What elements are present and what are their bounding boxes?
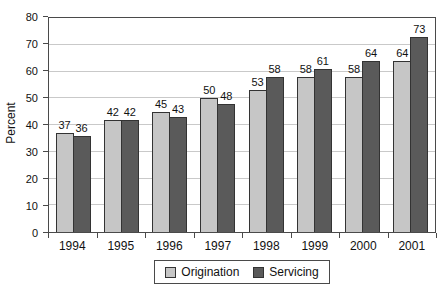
bar-chart-figure: Percent 01020304050607080 37364242454350… xyxy=(0,0,443,297)
bar-origination-1998: 53 xyxy=(249,90,267,232)
bar-value-label: 61 xyxy=(317,55,329,67)
bar-origination-1995: 42 xyxy=(104,120,122,232)
bar-group-1995: 4242 xyxy=(97,18,145,232)
bar-servicing-1996: 43 xyxy=(169,117,187,232)
x-tick-label-1998: 1998 xyxy=(242,239,291,253)
bar-origination-1994: 37 xyxy=(56,133,74,232)
origination-swatch-icon xyxy=(165,267,176,278)
y-axis: 01020304050607080 xyxy=(0,17,48,233)
legend-item-origination: Origination xyxy=(165,265,239,279)
y-tick-label-80: 80 xyxy=(26,11,38,23)
legend: OriginationServicing xyxy=(154,260,329,284)
bar-servicing-1998: 58 xyxy=(266,77,284,232)
legend-row: OriginationServicing xyxy=(48,260,436,284)
bar-servicing-1995: 42 xyxy=(121,120,139,232)
bar-servicing-1997: 48 xyxy=(217,104,235,232)
bar-value-label: 45 xyxy=(155,98,167,110)
legend-label-servicing: Servicing xyxy=(269,265,318,279)
bar-servicing-1994: 36 xyxy=(73,136,91,232)
x-tick-label-2001: 2001 xyxy=(388,239,437,253)
servicing-swatch-icon xyxy=(253,267,264,278)
x-tick-mark-3 xyxy=(194,233,195,238)
x-tick-label-1997: 1997 xyxy=(194,239,243,253)
bar-origination-2000: 58 xyxy=(345,77,363,232)
bar-value-label: 58 xyxy=(300,63,312,75)
bar-servicing-1999: 61 xyxy=(314,69,332,232)
x-tick-label-1995: 1995 xyxy=(97,239,146,253)
bar-group-1994: 3736 xyxy=(49,18,97,232)
plot-area: 37364242454350485358586158646473 xyxy=(48,17,436,233)
x-tick-mark-8 xyxy=(436,233,437,238)
bar-value-label: 64 xyxy=(365,47,377,59)
bar-group-1997: 5048 xyxy=(194,18,242,232)
bar-group-2000: 5864 xyxy=(339,18,387,232)
bar-value-label: 58 xyxy=(269,63,281,75)
bar-value-label: 48 xyxy=(220,90,232,102)
x-tick-mark-7 xyxy=(388,233,389,238)
bar-value-label: 42 xyxy=(107,106,119,118)
x-tick-label-2000: 2000 xyxy=(339,239,388,253)
x-tick-label-1994: 1994 xyxy=(48,239,97,253)
bar-servicing-2000: 64 xyxy=(362,61,380,232)
y-tick-label-20: 20 xyxy=(26,173,38,185)
bar-value-label: 43 xyxy=(172,103,184,115)
legend-item-servicing: Servicing xyxy=(253,265,318,279)
y-tick-label-0: 0 xyxy=(32,227,38,239)
bar-value-label: 64 xyxy=(396,47,408,59)
y-tick-label-70: 70 xyxy=(26,38,38,50)
bar-group-2001: 6473 xyxy=(387,18,435,232)
x-axis-tick-marks xyxy=(48,233,436,238)
bar-value-label: 42 xyxy=(124,106,136,118)
y-tick-label-30: 30 xyxy=(26,146,38,158)
bar-groups: 37364242454350485358586158646473 xyxy=(49,18,435,232)
x-tick-label-1996: 1996 xyxy=(145,239,194,253)
x-tick-mark-2 xyxy=(145,233,146,238)
y-tick-label-50: 50 xyxy=(26,92,38,104)
x-tick-mark-0 xyxy=(48,233,49,238)
bar-origination-1997: 50 xyxy=(200,98,218,232)
bar-value-label: 50 xyxy=(203,84,215,96)
bar-origination-1999: 58 xyxy=(297,77,315,232)
y-tick-label-60: 60 xyxy=(26,65,38,77)
x-tick-mark-6 xyxy=(339,233,340,238)
bar-value-label: 36 xyxy=(76,122,88,134)
bar-value-label: 73 xyxy=(413,23,425,35)
bar-value-label: 58 xyxy=(348,63,360,75)
bar-group-1998: 5358 xyxy=(242,18,290,232)
x-tick-label-1999: 1999 xyxy=(291,239,340,253)
legend-label-origination: Origination xyxy=(181,265,239,279)
bar-group-1996: 4543 xyxy=(146,18,194,232)
bar-servicing-2001: 73 xyxy=(410,37,428,232)
bar-origination-1996: 45 xyxy=(152,112,170,232)
bar-origination-2001: 64 xyxy=(393,61,411,232)
y-tick-label-40: 40 xyxy=(26,119,38,131)
x-axis-labels: 19941995199619971998199920002001 xyxy=(48,239,436,253)
x-tick-mark-1 xyxy=(97,233,98,238)
bar-value-label: 37 xyxy=(59,119,71,131)
x-tick-mark-5 xyxy=(291,233,292,238)
bar-group-1999: 5861 xyxy=(290,18,338,232)
y-tick-label-10: 10 xyxy=(26,200,38,212)
bar-value-label: 53 xyxy=(252,76,264,88)
x-tick-mark-4 xyxy=(242,233,243,238)
